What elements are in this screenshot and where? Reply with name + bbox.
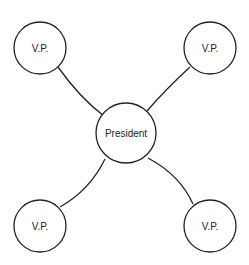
connector-bottom-right [148, 158, 193, 204]
node-vp-bottom-left: V.P. [14, 200, 66, 252]
node-label: V.P. [202, 221, 219, 232]
node-label: V.P. [202, 43, 219, 54]
org-chart-diagram: V.P. V.P. President V.P. V.P. [0, 0, 249, 265]
node-vp-bottom-right: V.P. [184, 200, 236, 252]
node-label: President [105, 128, 147, 139]
node-label: V.P. [32, 221, 49, 232]
connector-top-left [58, 67, 104, 116]
node-label: V.P. [32, 43, 49, 54]
connector-top-right [147, 67, 190, 111]
node-president: President [96, 103, 156, 163]
connector-bottom-left [60, 159, 105, 207]
node-vp-top-right: V.P. [184, 22, 236, 74]
node-vp-top-left: V.P. [14, 22, 66, 74]
